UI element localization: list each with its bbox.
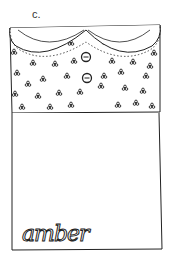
name-text: amber xyxy=(22,221,89,246)
button-1 xyxy=(82,53,91,62)
button-2 xyxy=(83,74,92,83)
